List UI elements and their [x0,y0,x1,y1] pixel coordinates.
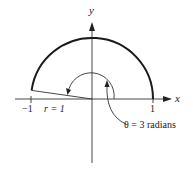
tick-label-minus-one: −1 [22,103,33,114]
unit-circle-diagram: y x −1 1 r = 1 θ = 3 radians [0,0,193,169]
y-axis-arrow-icon [89,22,95,31]
angle-label: θ = 3 radians [124,119,176,130]
y-axis-label: y [88,4,94,16]
angle-arrow-icon [66,88,71,95]
x-axis-arrow-icon [163,96,172,102]
tick-label-one: 1 [150,103,155,114]
x-axis-label: x [174,92,180,104]
radius-label: r = 1 [44,103,65,114]
radius-line [32,90,92,99]
